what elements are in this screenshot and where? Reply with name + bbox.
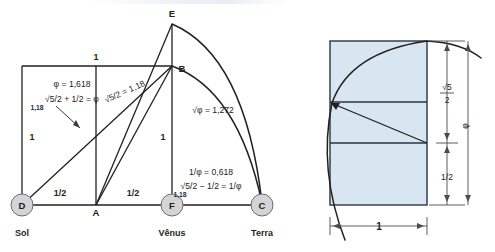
segment-label-half-right: 1/2 (127, 188, 140, 198)
annotation-pointer-arrowhead (73, 120, 80, 128)
diagonal-d-b (22, 66, 172, 205)
annotation-phi-formula: √5/2 + 1/2 = φ (45, 94, 99, 104)
dim-arrow-root5-half-top (444, 44, 450, 51)
dim-label-root5-numerator: √5 (442, 82, 452, 92)
annotation-phi-formula-sub: 1,18 (30, 104, 43, 112)
annotation-inv-phi-value: 1/φ = 0,618 (189, 167, 233, 177)
planet-label-sol: Sol (15, 228, 29, 238)
segment-label-top-one: 1 (93, 52, 98, 62)
right-diagram: √5 2 1/2 φ 1 (327, 41, 481, 240)
annotation-sqrt-phi: √φ = 1,272 (192, 105, 234, 115)
segment-label-half-left: 1/2 (54, 188, 67, 198)
node-label-e: E (169, 8, 175, 19)
dim-label-phi: φ (460, 123, 470, 129)
planet-label-venus: Vênus (158, 228, 185, 238)
node-label-c: C (259, 200, 266, 211)
segment-label-left-one: 1 (29, 132, 34, 142)
node-label-a: A (93, 207, 100, 218)
dim-arrow-root5-half-bottom (444, 133, 450, 140)
diagonal-a-e (96, 24, 172, 205)
dim-label-root5-denominator: 2 (445, 95, 450, 105)
dim-arrow-phi-bottom (465, 195, 471, 202)
golden-ratio-figure: D A F C B E Sol Vênus Terra 1 1 1 1/2 1/… (0, 0, 495, 252)
annotation-phi-value: φ = 1,618 (54, 79, 91, 89)
figure-canvas: D A F C B E Sol Vênus Terra 1 1 1 1/2 1/… (0, 0, 495, 252)
dim-arrow-half-bottom (444, 195, 450, 202)
left-diagram: D A F C B E Sol Vênus Terra 1 1 1 1/2 1/… (11, 8, 274, 238)
dim-arrow-phi-top (465, 44, 471, 51)
node-label-b: B (179, 63, 186, 74)
node-label-d: D (19, 200, 26, 211)
segment-label-mid-one: 1 (160, 132, 165, 142)
dim-label-width-one: 1 (376, 221, 382, 232)
dim-arrow-width-right (417, 223, 424, 229)
dim-label-half: 1/2 (441, 172, 453, 182)
annotation-inv-phi-formula: √5/2 − 1/2 = 1/φ (181, 181, 242, 191)
node-label-f: F (169, 200, 175, 211)
planet-label-terra: Terra (251, 228, 274, 238)
annotation-inv-phi-formula-sub: 1,18 (173, 191, 186, 199)
dim-arrow-width-left (333, 223, 340, 229)
dim-arrow-half-top (444, 146, 450, 153)
